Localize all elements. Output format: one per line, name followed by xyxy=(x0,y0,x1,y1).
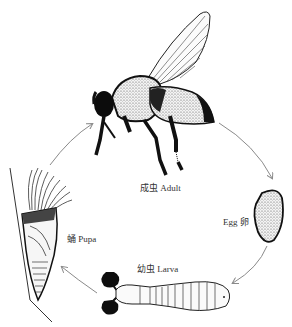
arrow-larva-to-pupa xyxy=(62,267,97,293)
arrow-adult-to-egg xyxy=(219,123,272,178)
diagram-artwork xyxy=(0,0,292,327)
stage-label-egg: Egg 卵 xyxy=(223,217,249,228)
adult-fly-illustration xyxy=(94,12,214,175)
arrow-egg-to-larva xyxy=(233,246,267,283)
stage-label-pupa: 蛹 Pupa xyxy=(67,234,96,245)
pupa-illustration xyxy=(10,168,72,322)
stage-label-larva: 幼虫 Larva xyxy=(137,264,178,275)
stage-label-adult: 成虫 Adult xyxy=(140,183,181,194)
arrow-pupa-to-adult xyxy=(50,124,92,165)
larva-illustration xyxy=(101,272,229,315)
life-cycle-diagram: 成虫 Adult Egg 卵 幼虫 Larva 蛹 Pupa xyxy=(0,0,292,327)
egg-illustration xyxy=(254,190,283,241)
